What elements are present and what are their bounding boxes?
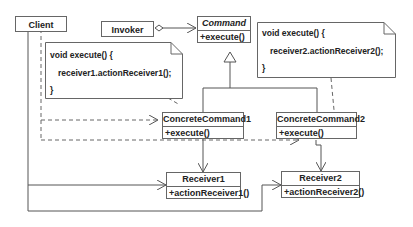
receiver-1-class[interactable]: Receiver1 +actionReceiver1() (166, 172, 241, 199)
note-line: receiver2.actionReceiver2(); (270, 46, 383, 56)
concrete-command-2-class[interactable]: ConcreteCommand2 +execute() (276, 112, 357, 139)
class-name: Receiver2 (282, 172, 359, 185)
note-line: } (262, 63, 265, 73)
class-name: Client (16, 17, 66, 31)
invoker-class[interactable]: Invoker (101, 21, 154, 37)
class-operation: +actionReceiver1() (167, 186, 240, 199)
note-line: } (50, 85, 53, 95)
class-name: ConcreteCommand1 (163, 113, 243, 126)
class-name: Command (198, 17, 250, 30)
client-class[interactable]: Client (15, 16, 67, 32)
class-operation: +execute() (277, 126, 356, 139)
note-line: receiver1.actionReceiver1(); (58, 68, 171, 78)
concrete-command-1-class[interactable]: ConcreteCommand1 +execute() (162, 112, 244, 139)
class-name: ConcreteCommand2 (277, 113, 356, 126)
class-name: Invoker (102, 22, 153, 36)
class-operation: +execute() (198, 30, 250, 43)
note-line: void execute() { (262, 28, 325, 38)
class-name: Receiver1 (167, 173, 240, 186)
receiver-2-class[interactable]: Receiver2 +actionReceiver2() (281, 171, 360, 198)
note-line: void execute() { (50, 50, 113, 60)
command-class[interactable]: Command +execute() (197, 16, 251, 43)
class-operation: +execute() (163, 126, 243, 139)
note-1-text: void execute() { receiver1.actionReceive… (45, 42, 183, 99)
class-operation: +actionReceiver2() (282, 185, 359, 198)
note-2-text: void execute() { receiver2.actionReceive… (257, 22, 396, 78)
